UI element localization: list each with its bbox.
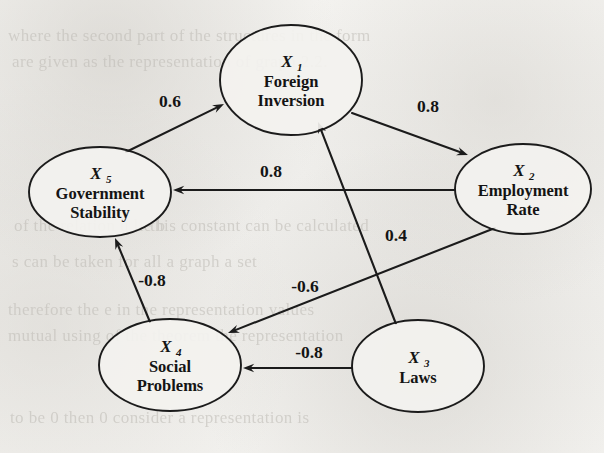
node-label-line: Stability	[70, 203, 130, 222]
edge-line	[126, 107, 218, 152]
causal-diagram: X1ForeignInversionX2EmploymentRateX3Laws…	[0, 0, 604, 453]
edge-weight-label: -0.8	[138, 270, 166, 290]
node-variable-letter: X	[512, 161, 525, 180]
edge-x3-to-x4[interactable]	[243, 364, 352, 372]
edge-line	[352, 113, 462, 153]
node-x3[interactable]: X3Laws	[352, 320, 484, 412]
edge-weight-label: 0.4	[385, 225, 407, 245]
node-variable-letter: X	[407, 348, 420, 367]
node-x4[interactable]: X4SocialProblems	[99, 319, 241, 411]
edge-weight-label: 0.8	[417, 96, 439, 116]
edge-weight-label: -0.6	[291, 276, 319, 296]
node-x2[interactable]: X2EmploymentRate	[455, 144, 591, 234]
edge-x2-to-x4[interactable]	[228, 228, 495, 333]
node-label-line: Problems	[137, 376, 204, 395]
node-label-line: Rate	[507, 200, 540, 219]
node-variable-letter: X	[89, 164, 102, 183]
node-label-line: Social	[149, 357, 192, 376]
node-variable-letter: X	[159, 337, 172, 356]
node-label-line: Inversion	[258, 91, 325, 110]
edge-weight-label: 0.8	[260, 161, 282, 181]
figure-canvas: where the second part of the structures …	[0, 0, 604, 453]
edge-x5-to-x1[interactable]	[126, 104, 224, 152]
node-label-line: Government	[56, 184, 145, 203]
node-label-line: Foreign	[264, 72, 319, 91]
edge-x2-to-x5[interactable]	[173, 186, 455, 194]
edge-weight-label: -0.8	[295, 342, 323, 362]
node-label-line: Laws	[399, 368, 437, 387]
node-x1[interactable]: X1ForeignInversion	[220, 25, 362, 135]
edge-x1-to-x2[interactable]	[352, 113, 468, 155]
edge-weight-label: 0.6	[159, 91, 181, 111]
node-variable-letter: X	[280, 52, 293, 71]
node-label-line: Employment	[478, 181, 569, 200]
node-x5[interactable]: X5GovernmentStability	[29, 147, 171, 237]
